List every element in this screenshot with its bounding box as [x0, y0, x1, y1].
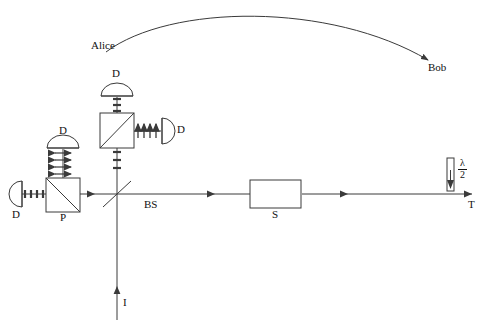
- label-polarizer-p: P: [60, 212, 66, 223]
- label-bob: Bob: [428, 62, 446, 73]
- label-detector-upper-left: D: [59, 125, 67, 136]
- optics-diagram-figure: Alice Bob D D D D P BS S T I λ 2: [0, 0, 483, 326]
- label-two: 2: [458, 170, 467, 181]
- label-transmitted-t: T: [468, 199, 475, 210]
- detector-top: [101, 83, 133, 96]
- main-horizontal-beam: [22, 191, 472, 198]
- p-to-upper-left-detector: [55, 149, 71, 178]
- upper-vertical-beam: [113, 148, 121, 194]
- half-wave-plate: [447, 158, 454, 191]
- label-source-s: S: [272, 209, 278, 220]
- detector-upper-left: [47, 135, 79, 148]
- source-box-s: [250, 180, 301, 208]
- input-vertical-beam: [114, 194, 121, 320]
- diagram-canvas: [0, 0, 483, 326]
- detector-right: [162, 118, 175, 144]
- label-alice: Alice: [91, 40, 115, 51]
- pbs-to-top-detector-beam: [113, 97, 121, 113]
- label-input-i: I: [123, 297, 127, 308]
- alice-to-bob-arc: [106, 16, 428, 60]
- detector-left: [9, 181, 22, 207]
- label-half-wave-plate: λ 2: [458, 158, 467, 180]
- pbs-to-right-detector: [134, 124, 161, 138]
- label-detector-right: D: [177, 124, 185, 135]
- polarizing-beamsplitter-upper: [100, 113, 134, 148]
- label-beamsplitter-bs: BS: [144, 199, 157, 210]
- label-lambda: λ: [458, 158, 467, 169]
- label-detector-top: D: [112, 68, 120, 79]
- polarizing-beamsplitter-p: [46, 178, 80, 212]
- label-detector-left: D: [12, 209, 20, 220]
